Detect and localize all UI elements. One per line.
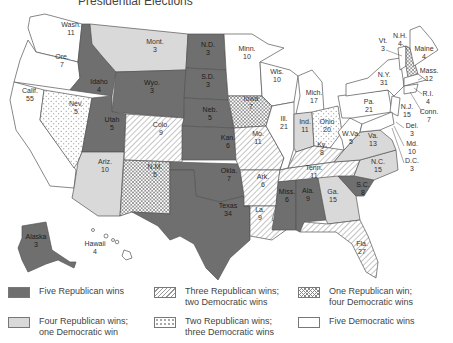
svg-text:Hawaii4: Hawaii4 <box>84 240 105 255</box>
svg-text:Vt.3: Vt.3 <box>379 37 388 52</box>
legend-item-five-dem: Five Democratic wins <box>298 316 415 328</box>
svg-text:D.C.3: D.C.3 <box>405 157 419 172</box>
legend-swatch-one-rep <box>298 287 320 298</box>
state-alaska <box>18 222 76 272</box>
svg-text:Ill.21: Ill.21 <box>280 115 288 130</box>
svg-text:N.J.15: N.J.15 <box>401 103 414 118</box>
legend-item-four-rep: Four Republican wins;one Democratic win <box>8 316 128 338</box>
state-ny <box>346 58 404 96</box>
legend-item-one-rep: One Republican win;four Democratic wins <box>298 286 413 308</box>
state-nm <box>120 160 170 216</box>
legend-item-three-rep: Three Republican wins;two Democratic win… <box>154 286 279 308</box>
state-conn-ri <box>404 84 418 94</box>
legend-swatch-two-rep <box>154 317 176 328</box>
state-fla <box>300 220 378 278</box>
legend-swatch-five-dem <box>298 317 320 328</box>
svg-text:R.I.4: R.I.4 <box>423 90 434 105</box>
legend-swatch-four-rep <box>8 317 30 328</box>
legend-swatch-five-rep <box>8 287 30 298</box>
legend-swatch-three-rep <box>154 287 176 298</box>
legend: Five Republican wins Three Republican wi… <box>0 283 453 343</box>
us-map: Wash.11 Ore.7 Calif.55 Idaho4 Nev.5 Mont… <box>0 0 453 283</box>
state-neb <box>182 98 234 128</box>
svg-text:Va.13: Va.13 <box>368 132 378 147</box>
state-wyo <box>112 70 186 118</box>
svg-text:N.H.4: N.H.4 <box>393 32 407 47</box>
svg-text:Del.3: Del.3 <box>406 122 419 137</box>
svg-text:Md.10: Md.10 <box>406 140 418 155</box>
legend-item-two-rep: Two Republican wins;three Democratic win… <box>154 316 274 338</box>
svg-text:Conn.7: Conn.7 <box>420 108 439 123</box>
svg-text:Pa.21: Pa.21 <box>364 98 375 113</box>
legend-item-five-rep: Five Republican wins <box>8 286 124 298</box>
